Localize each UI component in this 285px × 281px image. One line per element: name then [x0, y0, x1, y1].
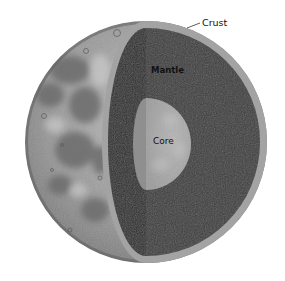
crust-leader-line [187, 23, 200, 28]
crust-label: Crust [202, 18, 227, 28]
core-label: Core [153, 136, 174, 146]
moon-cross-section-diagram [0, 0, 285, 281]
mantle-label: Mantle [151, 65, 184, 75]
